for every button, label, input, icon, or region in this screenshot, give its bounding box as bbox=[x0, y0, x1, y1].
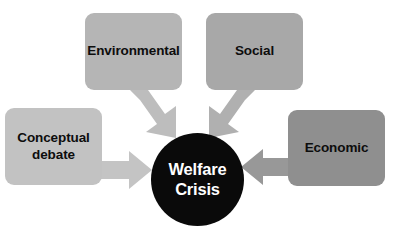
node-welfare-crisis[interactable]: Welfare Crisis bbox=[151, 133, 244, 226]
arrow-economic-to-center bbox=[240, 148, 292, 186]
node-welfare-crisis-label: Welfare Crisis bbox=[169, 160, 227, 200]
node-social[interactable]: Social bbox=[206, 13, 303, 90]
node-environmental-label: Environmental bbox=[87, 43, 179, 59]
arrow-environmental-to-center bbox=[124, 88, 184, 144]
node-environmental[interactable]: Environmental bbox=[85, 13, 182, 90]
diagram-canvas: Environmental Social Conceptual debate E… bbox=[0, 0, 394, 251]
arrow-conceptual-to-center bbox=[100, 150, 154, 190]
node-economic[interactable]: Economic bbox=[288, 110, 385, 186]
node-conceptual-debate[interactable]: Conceptual debate bbox=[5, 108, 102, 185]
node-social-label: Social bbox=[235, 43, 274, 59]
node-conceptual-debate-label: Conceptual debate bbox=[17, 130, 90, 163]
node-economic-label: Economic bbox=[305, 140, 369, 156]
